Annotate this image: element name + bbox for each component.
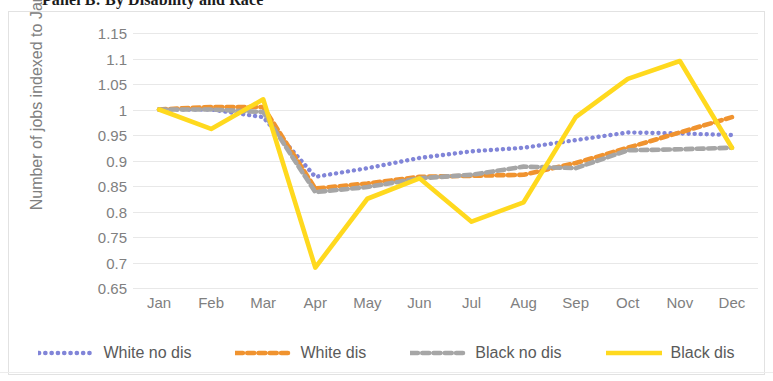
y-axis-tick: 0.85 (98, 178, 127, 195)
series-line (159, 110, 732, 193)
y-axis-tick: 0.9 (106, 152, 127, 169)
y-axis-tick: 1.15 (98, 25, 127, 42)
x-axis-tick-labels: JanFebMarAprMayJunJulAugSepOctNovDec (133, 294, 758, 316)
y-axis-tick: 0.65 (98, 280, 127, 297)
legend-swatch-dotted-icon (38, 347, 94, 359)
legend-swatch-dashed-icon (410, 347, 466, 359)
x-axis-tick: Jun (407, 294, 431, 311)
y-axis-tick-labels: 1.151.11.0510.950.90.850.80.750.70.65 (70, 33, 127, 288)
legend-item[interactable]: White dis (235, 344, 366, 362)
y-axis-tick: 1.05 (98, 76, 127, 93)
legend-label: Black no dis (475, 344, 561, 362)
legend-label: White dis (300, 344, 366, 362)
series-line (159, 61, 732, 268)
plot-area (133, 33, 758, 288)
y-axis-tick: 0.8 (106, 203, 127, 220)
legend-swatch-dashed-icon (235, 347, 291, 359)
legend-swatch-solid-icon (606, 347, 662, 359)
x-axis-tick: Nov (667, 294, 694, 311)
gridline (133, 288, 758, 289)
x-axis-tick: Dec (719, 294, 746, 311)
x-axis-tick: May (353, 294, 381, 311)
x-axis-tick: Aug (510, 294, 537, 311)
y-axis-tick: 0.7 (106, 254, 127, 271)
legend-label: White no dis (103, 344, 191, 362)
x-axis-tick: Mar (250, 294, 276, 311)
legend-item[interactable]: White no dis (38, 344, 191, 362)
y-axis-title: Number of jobs indexed to January (27, 0, 47, 211)
x-axis-tick: Sep (562, 294, 589, 311)
legend-item[interactable]: Black dis (606, 344, 735, 362)
y-axis-tick: 1.1 (106, 50, 127, 67)
bottom-divider (0, 372, 773, 373)
chart-screenshot: Panel B: By Disability and Race Number o… (0, 0, 773, 381)
chart-legend: White no disWhite disBlack no disBlack d… (8, 339, 765, 367)
x-axis-tick: Jan (147, 294, 171, 311)
y-axis-tick: 1 (119, 101, 127, 118)
series-overlay (133, 33, 758, 288)
y-axis-tick: 0.95 (98, 127, 127, 144)
panel-title: Panel B: By Disability and Race (42, 0, 263, 9)
legend-label: Black dis (671, 344, 735, 362)
x-axis-tick: Jul (462, 294, 481, 311)
y-axis-tick: 0.75 (98, 229, 127, 246)
legend-item[interactable]: Black no dis (410, 344, 561, 362)
x-axis-tick: Oct (616, 294, 639, 311)
x-axis-tick: Feb (198, 294, 224, 311)
x-axis-tick: Apr (304, 294, 327, 311)
